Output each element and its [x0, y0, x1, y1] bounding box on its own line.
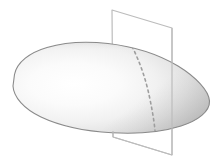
blob-top-shading: [0, 36, 222, 84]
blob-solid-shading: [0, 0, 222, 161]
blob-solid: [0, 0, 222, 161]
geometry-diagram: Solid body intersected by a cutting plan…: [0, 0, 222, 161]
cutting-plane-surface-front: [152, 28, 172, 155]
figure-root: Solid body intersected by a cutting plan…: [0, 0, 222, 161]
